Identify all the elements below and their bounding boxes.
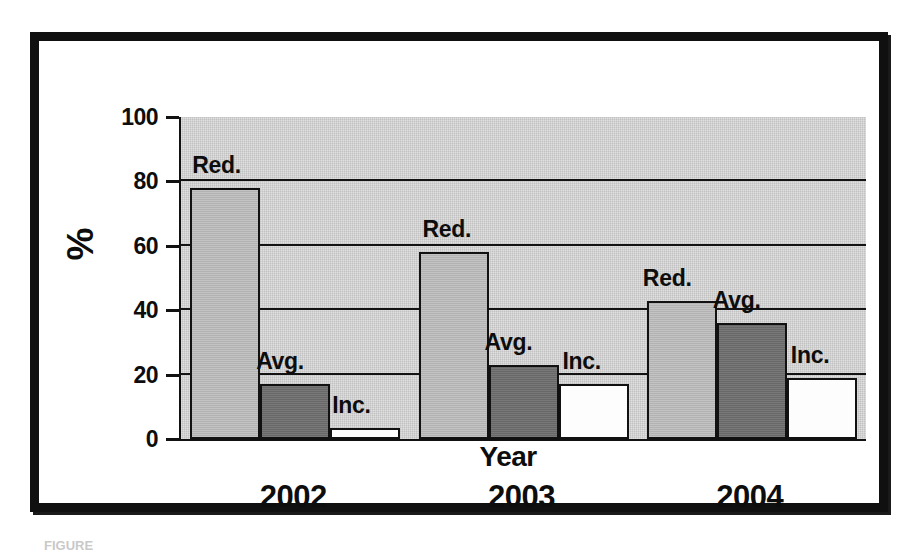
y-axis-tick-label: 0 — [96, 428, 158, 451]
bar-annotation: Avg. — [713, 289, 761, 312]
gridline — [181, 244, 866, 246]
y-axis-tick — [166, 309, 179, 312]
x-axis-category-label: 2003 — [407, 479, 635, 515]
bar-inc-2002[interactable] — [330, 428, 400, 439]
x-axis-title: Year — [480, 441, 537, 473]
gridline — [181, 179, 866, 181]
bar-avg-2004[interactable] — [717, 323, 787, 439]
bar-red-2004[interactable] — [647, 301, 717, 439]
bar-red-2002[interactable] — [190, 188, 260, 439]
bar-annotation: Avg. — [485, 331, 533, 354]
gridline — [181, 308, 866, 310]
x-axis-category-label: 2002 — [179, 479, 407, 515]
y-axis-title: % — [62, 229, 99, 261]
y-axis-tick — [166, 245, 179, 248]
bar-annotation: Red. — [643, 267, 692, 290]
figure-frame: % 020406080100 Year Red.Avg.Inc.Red.Avg.… — [30, 32, 888, 512]
bar-annotation: Red. — [423, 218, 472, 241]
y-axis-tick — [166, 374, 179, 377]
bar-inc-2004[interactable] — [787, 378, 857, 439]
y-axis-tick — [166, 116, 179, 119]
x-axis-category-label: 2004 — [636, 479, 864, 515]
bar-inc-2003[interactable] — [559, 384, 629, 439]
bar-annotation: Inc. — [791, 344, 829, 367]
y-axis-tick-label: 40 — [96, 299, 158, 322]
figure-caption: FIGURE — [44, 538, 93, 553]
bar-annotation: Avg. — [256, 350, 304, 373]
bar-avg-2003[interactable] — [489, 365, 559, 439]
y-axis-tick-label: 80 — [96, 170, 158, 193]
bar-annotation: Red. — [192, 154, 241, 177]
bar-red-2003[interactable] — [419, 252, 489, 439]
y-axis-tick — [166, 180, 179, 183]
plot-area — [179, 117, 866, 441]
bar-annotation: Inc. — [563, 350, 601, 373]
y-axis-tick — [166, 438, 179, 441]
y-axis-tick-label: 20 — [96, 364, 158, 387]
y-axis-tick-label: 60 — [96, 235, 158, 258]
chart-canvas: % 020406080100 Year Red.Avg.Inc.Red.Avg.… — [39, 41, 879, 503]
bar-annotation: Inc. — [332, 394, 370, 417]
bar-avg-2002[interactable] — [260, 384, 330, 439]
y-axis-tick-label: 100 — [96, 106, 158, 129]
